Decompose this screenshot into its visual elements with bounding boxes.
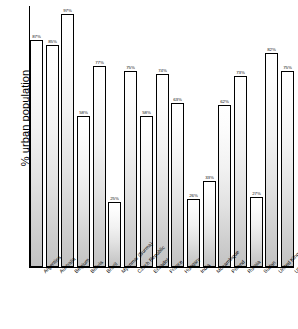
bar xyxy=(124,71,137,267)
bar-group: 58% xyxy=(77,6,90,267)
bar-group: 63% xyxy=(171,6,184,267)
bar-value-label: 74% xyxy=(158,68,167,73)
bar-value-label: 75% xyxy=(126,65,135,70)
bar xyxy=(30,40,43,267)
plot-area: 87%85%97%58%77%25%75%58%74%63%26%33%62%7… xyxy=(30,6,294,267)
bar-chart: % urban population 87%85%97%58%77%25%75%… xyxy=(0,0,298,329)
bar-group: 77% xyxy=(93,6,106,267)
bar-value-label: 26% xyxy=(189,193,198,198)
bar-group: 33% xyxy=(203,6,216,267)
bar-value-label: 27% xyxy=(252,191,261,196)
bar xyxy=(77,116,90,267)
bar xyxy=(281,71,294,267)
bar-group: 75% xyxy=(124,6,137,267)
bar-value-label: 58% xyxy=(79,110,88,115)
bar xyxy=(234,76,247,267)
bar xyxy=(218,105,231,267)
bar-group: 62% xyxy=(218,6,231,267)
bar xyxy=(250,197,263,267)
bar-value-label: 62% xyxy=(220,99,229,104)
bar-value-label: 75% xyxy=(283,65,292,70)
bar xyxy=(265,53,278,267)
bar-group: 87% xyxy=(30,6,43,267)
bar xyxy=(46,45,59,267)
bar-group: 58% xyxy=(140,6,153,267)
bar-group: 97% xyxy=(61,6,74,267)
bar-group: 25% xyxy=(108,6,121,267)
bar-value-label: 73% xyxy=(236,70,245,75)
bar xyxy=(108,202,121,267)
bar xyxy=(171,103,184,267)
bar xyxy=(61,14,74,267)
bar xyxy=(156,74,169,267)
bar-value-label: 85% xyxy=(48,39,57,44)
bar-group: 82% xyxy=(265,6,278,267)
bar-group: 75% xyxy=(281,6,294,267)
bar-value-label: 82% xyxy=(267,47,276,52)
bar xyxy=(203,181,216,267)
bar-value-label: 77% xyxy=(95,60,104,65)
bar-value-label: 63% xyxy=(173,97,182,102)
bar-value-label: 97% xyxy=(63,8,72,13)
bar-value-label: 25% xyxy=(110,196,119,201)
bar-group: 85% xyxy=(46,6,59,267)
bar-group: 27% xyxy=(250,6,263,267)
bar-value-label: 33% xyxy=(205,175,214,180)
bar-group: 74% xyxy=(156,6,169,267)
bar-group: 73% xyxy=(234,6,247,267)
bar-value-label: 58% xyxy=(142,110,151,115)
bar-value-label: 87% xyxy=(32,34,41,39)
bar-group: 26% xyxy=(187,6,200,267)
bar xyxy=(93,66,106,267)
